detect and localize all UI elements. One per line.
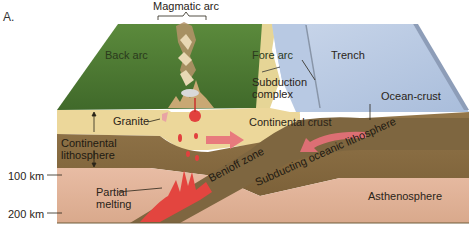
label-subduction-complex-2: complex <box>252 88 293 100</box>
label-continental-crust: Continental crust <box>249 116 332 128</box>
label-back-arc: Back arc <box>105 49 148 61</box>
land-surface <box>57 24 280 110</box>
label-ocean-crust: Ocean-crust <box>381 90 441 102</box>
label-trench: Trench <box>331 49 365 61</box>
label-subduction-complex-1: Subduction <box>252 76 307 88</box>
depth-label-200km: 200 km <box>8 208 44 220</box>
label-fore-arc: Fore arc <box>252 49 293 61</box>
label-partial-melting-2: melting <box>96 198 131 210</box>
label-asthenosphere: Asthenosphere <box>368 190 442 202</box>
label-partial-melting-1: Partial <box>96 186 127 198</box>
label-magmatic-arc: Magmatic arc <box>153 0 219 12</box>
label-continental-lithosphere-1: Continental <box>61 137 117 149</box>
label-continental-lithosphere-2: lithosphere <box>61 149 115 161</box>
panel-letter: A. <box>3 10 14 24</box>
label-granite: Granite <box>113 115 149 127</box>
depth-label-100km: 100 km <box>8 170 44 182</box>
